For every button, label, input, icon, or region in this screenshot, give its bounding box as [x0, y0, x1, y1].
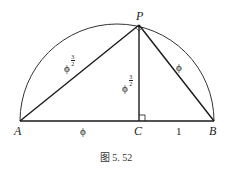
label-ap-exponent: 32 [71, 54, 75, 67]
point-label-c: C [134, 125, 142, 137]
segment-pb [139, 25, 214, 121]
label-pc: ϕ32 [122, 80, 133, 94]
figure-caption: 图 5. 52 [0, 149, 232, 164]
point-label-p: P [136, 10, 143, 22]
label-pb: ϕ [176, 62, 182, 73]
label-ap: ϕ32 [64, 60, 75, 74]
semicircle-arc [20, 24, 214, 121]
label-pc-exponent: 32 [129, 74, 133, 87]
point-label-a: A [14, 125, 21, 137]
label-cb: 1 [176, 126, 182, 137]
right-angle-c [139, 115, 145, 121]
label-ac: ϕ [80, 126, 86, 137]
point-label-b: B [209, 125, 216, 137]
label-pc-base: ϕ [122, 82, 128, 94]
segment-ap [20, 25, 139, 121]
label-ap-base: ϕ [64, 62, 70, 74]
semicircle-diagram [0, 0, 232, 171]
